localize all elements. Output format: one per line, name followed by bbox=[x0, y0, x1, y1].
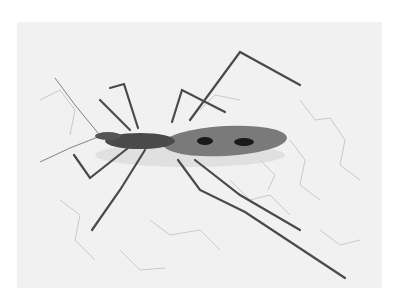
insect-photo bbox=[17, 22, 382, 288]
wing-spot bbox=[197, 137, 213, 145]
photo-illustration bbox=[17, 22, 382, 288]
wing-spot bbox=[234, 138, 254, 146]
